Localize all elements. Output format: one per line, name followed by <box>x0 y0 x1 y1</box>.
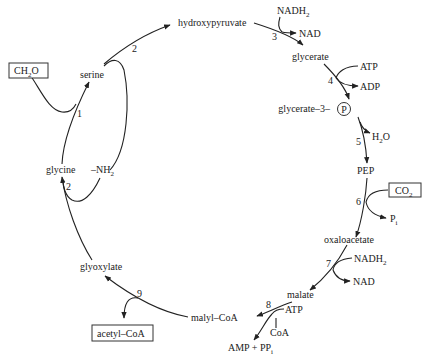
step-number-9: 9 <box>137 288 142 299</box>
nadh2-in-step7 <box>333 258 352 270</box>
label-nad-step7: NAD <box>353 276 375 287</box>
label-nadh2-step7: NADH2 <box>354 253 387 267</box>
label-atp-step8: ATP <box>285 304 303 315</box>
arrow-pep-to-oxaloacetate <box>356 178 367 237</box>
label-hydroxypyruvate: hydroxypyruvate <box>178 17 247 28</box>
step-number-3: 3 <box>272 31 277 42</box>
label-malylcoa: malyl–CoA <box>191 312 238 323</box>
label-malate: malate <box>287 289 314 300</box>
step-number-4: 4 <box>328 75 333 86</box>
label-glyoxylate: glyoxylate <box>80 261 123 272</box>
step-number-5: 5 <box>356 136 361 147</box>
arrow-serine-to-hydroxypyruvate <box>104 25 170 64</box>
label-glycerate3p: glycerate–3– <box>278 103 331 114</box>
label-adp-step4: ADP <box>360 81 380 92</box>
nad-out-step7 <box>333 270 350 281</box>
arrow-glycine-to-serine <box>62 82 89 164</box>
pi-out-step6 <box>366 202 386 218</box>
label-serine: serine <box>80 69 104 80</box>
label-glycine: glycine <box>46 164 76 175</box>
co2-in-step6 <box>366 190 388 202</box>
label-nadh2-step3: NADH2 <box>277 5 310 19</box>
label-acetylcoa: acetyl–CoA <box>97 328 146 339</box>
label-oxaloacetate: oxaloacetate <box>324 234 375 245</box>
atp-in-step4 <box>336 66 358 78</box>
label-pep: PEP <box>357 165 375 176</box>
acetylcoa-out-step9 <box>124 298 138 318</box>
label-nad-step3: NAD <box>299 28 321 39</box>
label-atp-step4: ATP <box>360 61 378 72</box>
step-number-2-top: 2 <box>132 43 137 54</box>
step-number-8: 8 <box>266 299 271 310</box>
label-phosphate: P <box>341 104 347 115</box>
nadh2-in-step3 <box>279 17 282 32</box>
label-amp-ppi: AMP + PPi <box>228 342 273 356</box>
label-coa-step8: CoA <box>270 327 290 338</box>
step-number-1: 1 <box>77 108 82 119</box>
label-nh2: –NH2 <box>90 164 114 178</box>
label-h2o-step5: H2O <box>372 131 390 145</box>
adp-out-step4 <box>336 78 358 86</box>
serine-pathway-diagram: hydroxypyruvate glycerate glycerate–3– P… <box>0 0 428 358</box>
atp-in-step8 <box>272 309 284 314</box>
label-pi-step6: Pi <box>390 213 398 227</box>
nh2-transfer-loop <box>104 60 127 170</box>
nad-out-step3 <box>282 32 296 33</box>
arrow-malylcoa-to-glyoxylate <box>105 276 188 317</box>
label-glycerate: glycerate <box>292 51 329 62</box>
step-number-2-bottom: 2 <box>66 181 71 192</box>
step-number-7: 7 <box>326 258 331 269</box>
step-number-6: 6 <box>356 196 361 207</box>
